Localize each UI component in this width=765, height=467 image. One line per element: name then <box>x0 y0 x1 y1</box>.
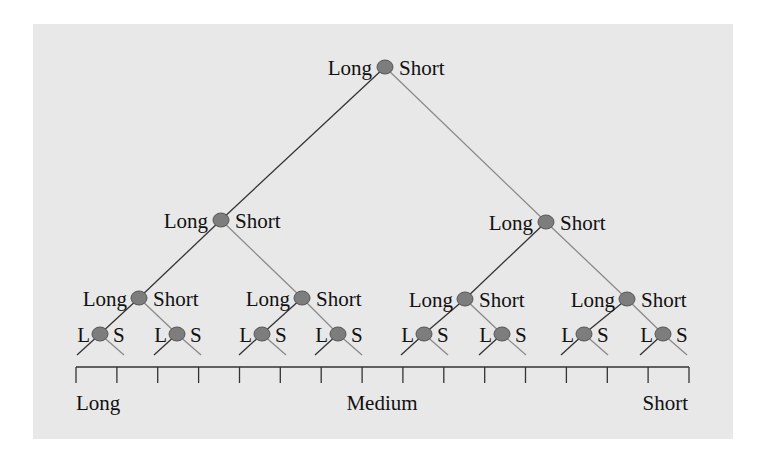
node-label-short: Short <box>399 56 445 80</box>
node-label-s: S <box>351 323 363 347</box>
node-label-long: Long <box>246 287 291 311</box>
node-label-l: L <box>561 323 574 347</box>
node-l4 <box>330 327 346 341</box>
node-l2 <box>538 215 554 229</box>
node-label-short: Short <box>560 211 606 235</box>
node-l2 <box>213 213 229 227</box>
node-label-s: S <box>515 323 527 347</box>
node-label-s: S <box>275 323 287 347</box>
axis-label-short: Short <box>642 391 688 415</box>
node-l4 <box>169 327 185 341</box>
node-l4 <box>416 327 432 341</box>
node-root <box>377 60 393 74</box>
node-label-short: Short <box>479 288 525 312</box>
node-label-long: Long <box>571 288 616 312</box>
node-l4 <box>254 327 270 341</box>
node-l4 <box>576 327 592 341</box>
node-label-short: Short <box>316 287 362 311</box>
binary-tree-diagram: Long Short Long Short Long Short Long Sh… <box>0 0 765 467</box>
node-l3 <box>619 292 635 306</box>
node-label-s: S <box>113 323 125 347</box>
node-label-l: L <box>479 323 492 347</box>
node-label-long: Long <box>83 287 128 311</box>
node-label-short: Short <box>153 287 199 311</box>
axis-label-long: Long <box>76 391 121 415</box>
node-label-long: Long <box>328 56 373 80</box>
node-label-l: L <box>154 323 167 347</box>
node-label-l: L <box>77 323 90 347</box>
node-l4 <box>494 327 510 341</box>
node-label-s: S <box>597 323 609 347</box>
node-l3 <box>294 291 310 305</box>
node-label-l: L <box>315 323 328 347</box>
labels: Long Short Long Short Long Short Long Sh… <box>77 56 688 347</box>
node-label-l: L <box>640 323 653 347</box>
node-label-s: S <box>676 323 688 347</box>
node-label-l: L <box>401 323 414 347</box>
node-l3 <box>131 291 147 305</box>
axis <box>76 367 689 383</box>
node-label-l: L <box>239 323 252 347</box>
node-l3 <box>457 292 473 306</box>
node-label-long: Long <box>409 288 454 312</box>
node-l4 <box>655 327 671 341</box>
node-l4 <box>92 327 108 341</box>
node-label-s: S <box>437 323 449 347</box>
node-label-s: S <box>190 323 202 347</box>
node-label-long: Long <box>489 211 534 235</box>
node-label-short: Short <box>641 288 687 312</box>
node-label-long: Long <box>164 209 209 233</box>
node-label-short: Short <box>235 209 281 233</box>
axis-label-medium: Medium <box>346 391 417 415</box>
